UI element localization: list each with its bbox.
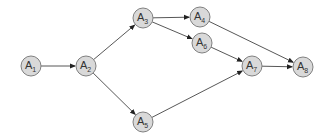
edge-a2-a5 bbox=[93, 73, 135, 114]
node-a8: A8 bbox=[293, 57, 313, 77]
nodes: A1A2A3A4A5A6A7A8 bbox=[21, 7, 313, 132]
edge-a5-a7 bbox=[152, 71, 242, 117]
node-a5: A5 bbox=[133, 112, 153, 132]
node-a2: A2 bbox=[76, 56, 96, 76]
node-a1: A1 bbox=[21, 56, 41, 76]
edge-a7-a8 bbox=[262, 66, 292, 67]
edge-a3-a6 bbox=[152, 22, 192, 39]
edge-a2-a3 bbox=[94, 25, 135, 59]
node-a4: A4 bbox=[190, 7, 210, 27]
node-a6: A6 bbox=[192, 33, 212, 53]
node-a3: A3 bbox=[133, 8, 153, 28]
edge-a3-a4 bbox=[153, 17, 189, 18]
edge-a6-a7 bbox=[211, 47, 242, 61]
node-a7: A7 bbox=[242, 56, 262, 76]
directed-graph: A1A2A3A4A5A6A7A8 bbox=[0, 0, 332, 138]
